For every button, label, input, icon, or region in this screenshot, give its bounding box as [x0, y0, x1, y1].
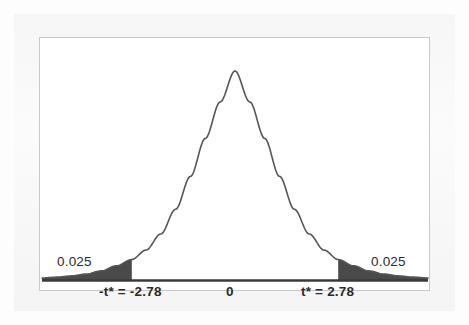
figure-container: 0.025 0.025 -t* = -2.78 0 t* = 2.78	[0, 0, 469, 325]
x-axis-tick-label-lower-critical: -t* = -2.78	[99, 284, 162, 299]
x-axis-tick-label-upper-critical: t* = 2.78	[301, 284, 354, 299]
left-tail-area-label: 0.025	[57, 254, 92, 269]
density-curve	[42, 71, 428, 278]
distribution-plot	[0, 0, 469, 325]
x-axis-tick-label-center: 0	[226, 284, 234, 299]
right-tail-area-label: 0.025	[371, 254, 406, 269]
